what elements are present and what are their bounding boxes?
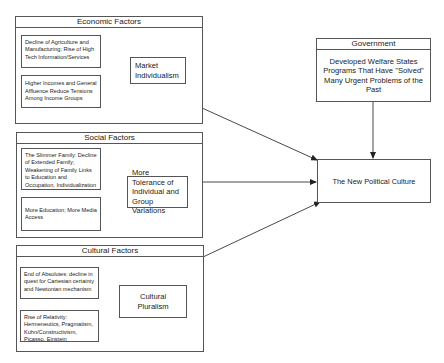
government-box: Government Developed Welfare States Prog…: [316, 38, 431, 102]
government-title: Government: [317, 39, 430, 50]
new-political-culture-box: The New Political Culture: [317, 159, 431, 203]
economic-input-2: Higher Incomes and General Affluence Red…: [21, 75, 101, 108]
cultural-pluralism-box: Cultural Pluralism: [119, 285, 187, 318]
cultural-factors-title: Cultural Factors: [17, 246, 203, 257]
social-factors-title: Social Factors: [17, 133, 202, 144]
market-individualism-box: Market Individualism: [130, 57, 186, 84]
economic-factors-title: Economic Factors: [16, 17, 202, 28]
social-input-2: More Education; More Media Access: [21, 197, 101, 231]
economic-input-1: Decline of Agriculture and Manufacturing…: [21, 35, 101, 68]
social-input-1: The Slimmer Family: Decline of Extended …: [21, 148, 101, 190]
government-body: Developed Welfare States Programs That H…: [317, 50, 430, 101]
cultural-input-2: Rise of Relativity: Hermeneutics, Pragma…: [20, 310, 99, 342]
more-tolerance-box: More Tolerance of Individual and Group V…: [127, 176, 188, 208]
cultural-input-1: End of Absolutes: decline in quest for C…: [20, 267, 99, 299]
